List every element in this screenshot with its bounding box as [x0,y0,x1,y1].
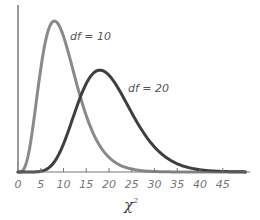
chi-square-chart: 051015202530354045 df = 10 df = 20 χ2 [0,0,260,220]
x-tick-label: 0 [15,178,22,191]
x-tick-label: 45 [216,178,230,191]
curve-label-df20: df = 20 [128,82,169,95]
x-tick-label: 30 [148,178,162,191]
x-tick-label: 15 [79,178,93,191]
x-tick-label: 40 [193,178,207,191]
x-tick-label: 5 [37,178,44,191]
x-tick-label: 20 [102,178,116,191]
curves [18,21,246,172]
x-tick-label: 35 [170,178,184,191]
x-axis-label: χ2 [123,196,138,214]
x-tick-label: 10 [57,178,71,191]
curve-label-df10: df = 10 [70,30,111,43]
curve-df10 [18,21,246,172]
x-tick-label: 25 [125,178,139,191]
